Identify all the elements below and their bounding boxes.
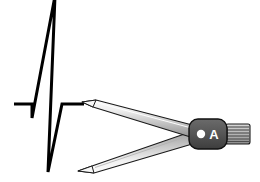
ecg-caliper-illustration: A [0,0,260,182]
hinge-pivot-dot [197,130,205,138]
caliper-hinge[interactable]: A [189,119,227,149]
figure-canvas: A [0,0,260,182]
hinge-body [189,119,227,149]
hinge-label: A [209,127,219,142]
